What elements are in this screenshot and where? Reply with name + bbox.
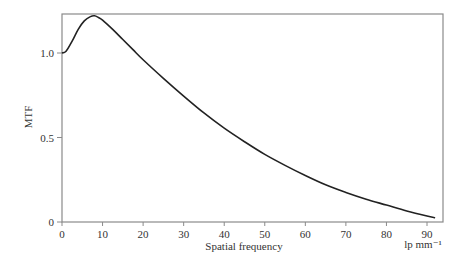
x-tick-label: 20 [138,228,150,240]
x-axis-unit: lp mm⁻¹ [404,238,442,250]
mtf-curve [62,16,435,218]
x-tick-label: 40 [219,228,231,240]
x-tick-label: 30 [178,228,190,240]
x-tick-label: 50 [259,228,271,240]
plot-frame [62,14,443,222]
y-tick-label: 0.5 [40,132,54,144]
y-tick-label: 1.0 [40,47,54,59]
x-axis-ticks: 0102030405060708090 [59,222,433,240]
x-tick-label: 0 [59,228,65,240]
y-axis-label: MTF [22,106,34,129]
mtf-chart: 0102030405060708090 00.51.0 Spatial freq… [0,0,465,262]
x-axis-label: Spatial frequency [205,240,283,252]
y-tick-label: 0 [49,216,55,228]
x-tick-label: 10 [97,228,109,240]
x-tick-label: 60 [300,228,312,240]
x-tick-label: 80 [381,228,393,240]
y-axis-ticks: 00.51.0 [40,47,62,228]
x-tick-label: 70 [340,228,352,240]
